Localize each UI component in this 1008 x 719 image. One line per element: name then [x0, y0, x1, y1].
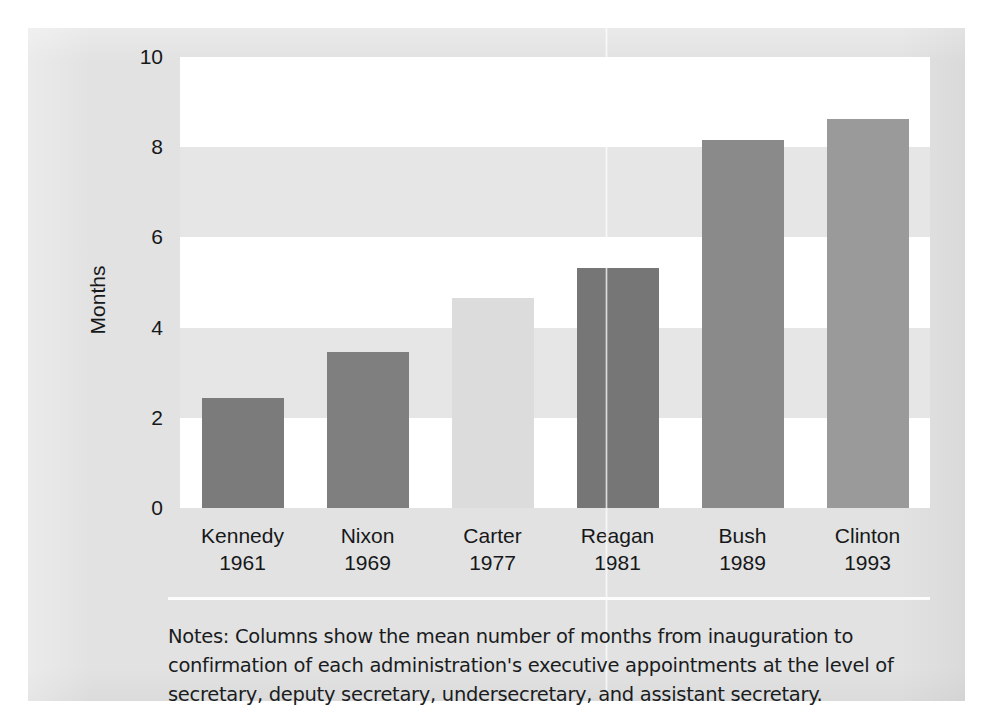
y-axis-label: Months	[86, 266, 110, 335]
x-tick-label-group: Nixon1969	[305, 522, 430, 576]
x-tick-name: Reagan	[555, 522, 680, 549]
notes-text: Notes: Columns show the mean number of m…	[168, 622, 938, 709]
bar-carter	[452, 298, 534, 508]
x-tick-name: Kennedy	[180, 522, 305, 549]
bar-bush	[702, 140, 784, 508]
y-tick-label: 4	[117, 317, 163, 338]
x-tick-year: 1969	[305, 549, 430, 576]
x-tick-name: Carter	[430, 522, 555, 549]
bar-nixon	[327, 352, 409, 508]
bar-clinton	[827, 119, 909, 508]
y-tick-label: 8	[117, 136, 163, 157]
x-tick-label-group: Reagan1981	[555, 522, 680, 576]
x-tick-year: 1961	[180, 549, 305, 576]
bars-layer	[180, 57, 930, 508]
x-tick-label-group: Clinton1993	[805, 522, 930, 576]
x-tick-label-group: Bush1989	[680, 522, 805, 576]
x-tick-label-group: Carter1977	[430, 522, 555, 576]
y-tick-label: 2	[117, 407, 163, 428]
bar-reagan	[577, 268, 659, 508]
y-tick-label: 10	[117, 46, 163, 67]
x-tick-year: 1981	[555, 549, 680, 576]
bar-kennedy	[202, 398, 284, 508]
x-tick-name: Clinton	[805, 522, 930, 549]
x-tick-name: Nixon	[305, 522, 430, 549]
x-tick-year: 1993	[805, 549, 930, 576]
notes-separator-rule	[168, 597, 930, 600]
y-tick-label: 6	[117, 226, 163, 247]
x-tick-year: 1989	[680, 549, 805, 576]
x-tick-name: Bush	[680, 522, 805, 549]
y-tick-label: 0	[117, 497, 163, 518]
figure-container: 0246810 Months Kennedy1961Nixon1969Carte…	[0, 0, 1008, 719]
x-tick-label-group: Kennedy1961	[180, 522, 305, 576]
x-tick-year: 1977	[430, 549, 555, 576]
